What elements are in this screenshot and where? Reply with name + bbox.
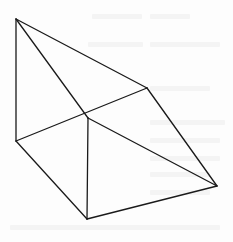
- edge-CB: [16, 88, 147, 141]
- edge-EF: [87, 186, 217, 219]
- edge-AD: [16, 19, 88, 118]
- edge-BF: [147, 88, 217, 186]
- edge-AB: [16, 19, 147, 88]
- edge-DF: [88, 118, 217, 186]
- edge-DE: [87, 118, 88, 219]
- diagram-canvas: [0, 0, 233, 242]
- polyhedron-figure: [0, 0, 233, 242]
- edge-CE: [16, 141, 87, 219]
